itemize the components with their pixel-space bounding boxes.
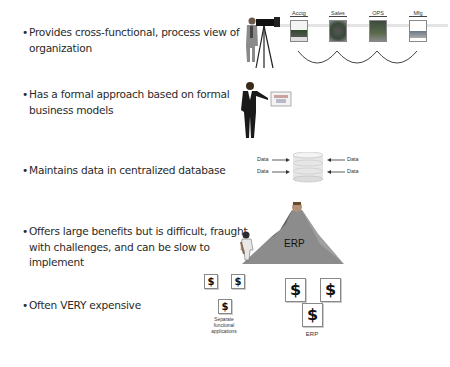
department-photo-icon: [409, 20, 427, 42]
bullet-dot: •: [22, 163, 28, 179]
department-label: Mfg: [409, 10, 427, 17]
department-label: Sales: [329, 10, 347, 17]
separate-apps-label-line: applications: [204, 329, 244, 335]
bullet-text-line: implement: [22, 255, 247, 271]
bullet-text-line: Provides cross-functional, process view …: [22, 25, 239, 41]
separate-apps-label: Separate functional applications: [204, 317, 244, 335]
department-photo-icon: [290, 20, 308, 42]
process-view-illustration: Acctg Sales OPS Mfg: [240, 10, 450, 80]
database-cylinder-icon: [257, 152, 367, 186]
bullet-text-line: Offers large benefits but is difficult, …: [22, 224, 247, 240]
bullet-dot: •: [22, 224, 28, 240]
bullet-dot: •: [22, 298, 28, 314]
bullet-formal-approach: • Has a formal approach based on formal …: [22, 87, 229, 118]
bullet-text-line: organization: [22, 41, 239, 57]
bullet-dot: •: [22, 87, 28, 103]
bullet-text-line: Has a formal approach based on formal: [22, 87, 229, 103]
bullet-centralized-database: • Maintains data in centralized database: [22, 163, 225, 179]
department-photo-icon: [329, 20, 347, 42]
dollar-box-icon: $: [231, 274, 245, 289]
bullet-very-expensive: • Often VERY expensive: [22, 298, 141, 314]
mountain-icon: [240, 200, 350, 270]
bullet-large-benefits: • Offers large benefits but is difficult…: [22, 224, 247, 271]
erp-cost: $ $ $ ERP: [285, 278, 365, 348]
mountain-erp-label: ERP: [284, 238, 305, 249]
bullet-text-line: business models: [22, 103, 229, 119]
dollar-box-icon: $: [285, 278, 306, 302]
bullet-text-line: Often VERY expensive: [22, 298, 141, 314]
department-mfg: Mfg: [409, 10, 427, 42]
business-model-illustration: [238, 80, 298, 140]
dollar-box-icon: $: [204, 274, 218, 289]
bullet-text-line: with challenges, and can be slow to: [22, 240, 247, 256]
presenter-man-icon: [238, 80, 298, 140]
erp-cost-label: ERP: [295, 331, 329, 337]
bullet-text-line: Maintains data in centralized database: [22, 163, 225, 179]
database-illustration: Data Data Data Data: [257, 152, 367, 186]
dollar-box-icon: $: [302, 303, 323, 327]
department-label: OPS: [369, 10, 387, 17]
department-ops: OPS: [369, 10, 387, 42]
mountain-illustration: ERP: [240, 200, 350, 270]
separate-apps-cost: $ $ $ Separate functional applications: [204, 274, 264, 344]
department-photo-icon: [369, 20, 387, 42]
bullet-process-view: • Provides cross-functional, process vie…: [22, 25, 239, 56]
summit-figure-icon: [292, 202, 302, 212]
department-sales: Sales: [329, 10, 347, 42]
dollar-box-icon: $: [218, 299, 232, 314]
department-label: Acctg: [290, 10, 308, 17]
bullet-dot: •: [22, 25, 28, 41]
dollar-box-icon: $: [320, 278, 341, 302]
department-acctg: Acctg: [290, 10, 308, 42]
